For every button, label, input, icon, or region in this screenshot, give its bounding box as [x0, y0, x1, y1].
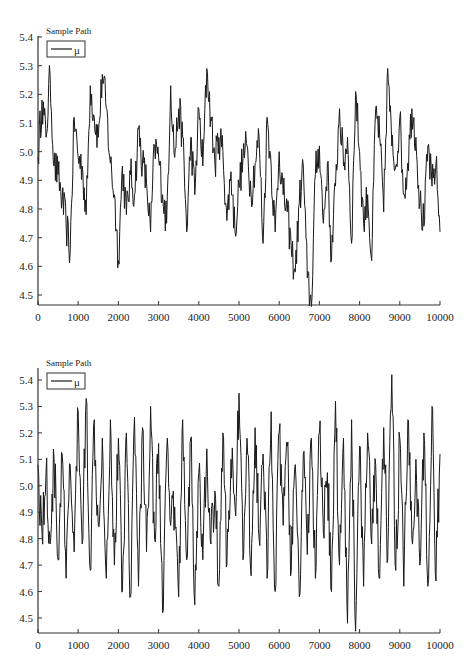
y-tick-label: 4.8 — [19, 533, 33, 545]
y-tick-label: 5.0 — [19, 146, 33, 158]
legend: μ — [47, 373, 85, 389]
mu-series-line — [38, 65, 440, 306]
x-tick-label: 7000 — [308, 311, 331, 323]
x-tick-label: 10000 — [426, 311, 454, 323]
x-tick-label: 5000 — [228, 311, 251, 323]
x-tick-label: 3000 — [148, 639, 171, 651]
x-tick-label: 8000 — [349, 311, 372, 323]
y-tick-label: 4.5 — [19, 289, 33, 301]
x-tick-label: 7000 — [308, 639, 331, 651]
bottom-trace-plot: 4.54.64.74.84.95.05.15.25.35.40100020003… — [0, 335, 472, 658]
y-tick-label: 4.7 — [19, 232, 33, 244]
legend-label: μ — [74, 44, 80, 56]
x-tick-label: 6000 — [268, 639, 291, 651]
y-tick-label: 5.4 — [19, 31, 33, 43]
chart-title: Sample Path — [46, 358, 92, 368]
x-tick-label: 3000 — [148, 311, 171, 323]
y-tick-label: 4.9 — [19, 174, 33, 186]
x-tick-label: 2000 — [107, 639, 130, 651]
x-tick-label: 9000 — [389, 311, 412, 323]
x-tick-label: 4000 — [188, 311, 211, 323]
y-tick-label: 4.8 — [19, 203, 33, 215]
top-trace-plot: 4.54.64.74.84.95.05.15.25.35.40100020003… — [0, 0, 472, 330]
bottom-trace-chart: 4.54.64.74.84.95.05.15.25.35.40100020003… — [0, 335, 472, 658]
x-tick-label: 1000 — [67, 311, 90, 323]
y-tick-label: 4.6 — [19, 260, 33, 272]
top-trace-chart: 4.54.64.74.84.95.05.15.25.35.40100020003… — [0, 0, 472, 330]
y-tick-label: 5.2 — [19, 427, 33, 439]
y-tick-label: 4.5 — [19, 612, 33, 624]
x-tick-label: 5000 — [228, 639, 251, 651]
axes: 4.54.64.74.84.95.05.15.25.35.40100020003… — [19, 31, 454, 323]
chart-title: Sample Path — [46, 26, 92, 36]
x-tick-label: 8000 — [349, 639, 372, 651]
legend: μ — [47, 41, 85, 57]
y-tick-label: 4.6 — [19, 586, 33, 598]
x-tick-label: 0 — [35, 311, 41, 323]
x-tick-label: 2000 — [107, 311, 130, 323]
x-tick-label: 4000 — [188, 639, 211, 651]
x-tick-label: 0 — [35, 639, 41, 651]
legend-label: μ — [74, 376, 80, 388]
y-tick-label: 5.1 — [19, 117, 33, 129]
y-tick-label: 5.3 — [19, 60, 33, 72]
x-tick-label: 9000 — [389, 639, 412, 651]
y-tick-label: 4.9 — [19, 506, 33, 518]
y-tick-label: 5.4 — [19, 374, 33, 386]
y-tick-label: 5.2 — [19, 88, 33, 100]
y-tick-label: 4.7 — [19, 559, 33, 571]
x-tick-label: 10000 — [426, 639, 454, 651]
x-tick-label: 1000 — [67, 639, 90, 651]
y-tick-label: 5.1 — [19, 453, 33, 465]
y-tick-label: 5.3 — [19, 400, 33, 412]
x-tick-label: 6000 — [268, 311, 291, 323]
y-tick-label: 5.0 — [19, 480, 33, 492]
mu-series-line — [38, 375, 440, 632]
